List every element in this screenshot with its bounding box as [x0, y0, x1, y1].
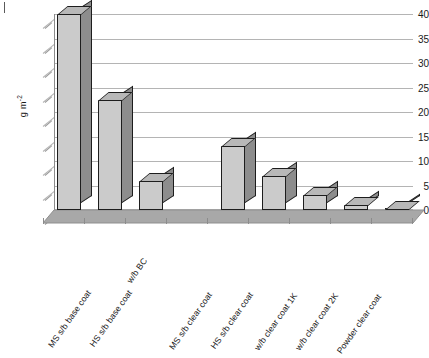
y-axis-title-exponent: -2	[16, 95, 23, 101]
y-axis-title-text: g m	[18, 101, 28, 117]
bar-powder-clear-coat[interactable]	[385, 209, 409, 210]
bar-wb-clear-coat-1k[interactable]	[303, 195, 327, 210]
bar-ms-sb-base-coat[interactable]	[57, 14, 81, 210]
x-axis-ticks	[43, 218, 424, 225]
bar-front-face	[98, 100, 122, 210]
y-axis-title: g m-2	[16, 76, 28, 136]
bar-side-face	[122, 86, 133, 203]
x-label-wb-bc: w/b BC	[116, 256, 149, 298]
bar-wb-bc[interactable]	[139, 181, 163, 210]
bar-ms-sb-clear-coat[interactable]	[221, 146, 245, 210]
x-axis-labels: MS s/b base coat HS s/b base coat w/b BC…	[0, 226, 429, 317]
bar-front-face	[139, 181, 163, 210]
bar-hs-sb-clear-coat[interactable]	[262, 176, 286, 210]
bar-top-face	[385, 201, 420, 210]
bars-layer	[54, 14, 424, 224]
bar-front-face	[262, 176, 286, 210]
bar-front-face	[221, 146, 245, 210]
bar-front-face	[57, 14, 81, 210]
corner-marker	[4, 2, 5, 13]
bar-wb-clear-coat-2k[interactable]	[344, 205, 368, 210]
bar-top-face	[344, 197, 379, 206]
bar-hs-sb-base-coat[interactable]	[98, 100, 122, 210]
bar-side-face	[81, 0, 92, 203]
bar-front-face	[303, 195, 327, 210]
